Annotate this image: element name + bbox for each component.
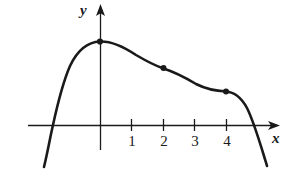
- point-at-x-4: [223, 89, 229, 95]
- y-axis: [96, 4, 105, 150]
- graph-canvas: [0, 0, 296, 181]
- x-tick-label-2: 2: [156, 134, 172, 149]
- x-tick-label-3: 3: [187, 134, 203, 149]
- x-axis-label: x: [272, 131, 280, 146]
- x-tick-label-4: 4: [219, 134, 235, 149]
- x-tick-label-1: 1: [124, 134, 140, 149]
- graph-figure: y x 1 2 3 4: [0, 0, 296, 181]
- x-axis: [28, 121, 280, 130]
- point-local-maximum: [97, 38, 103, 44]
- marked-points: [97, 38, 229, 94]
- y-axis-label: y: [80, 3, 87, 18]
- point-at-x-2: [161, 65, 167, 71]
